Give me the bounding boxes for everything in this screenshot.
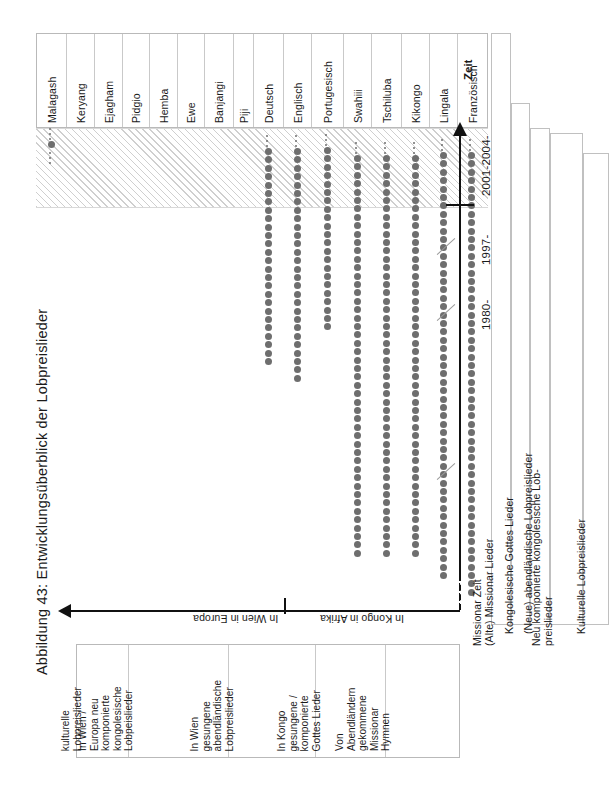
data-dot — [412, 390, 419, 397]
category-label: Pidgio — [131, 93, 142, 123]
data-dot — [383, 214, 390, 221]
data-dot — [412, 172, 419, 179]
data-dot — [383, 231, 390, 238]
data-dot — [324, 307, 331, 314]
data-dot — [354, 508, 361, 515]
description-text: Von Abendländern gekommene Missionar Hym… — [334, 688, 392, 751]
data-dot — [383, 373, 390, 380]
data-dot — [468, 463, 475, 470]
category-cell-piji: Piji — [234, 34, 254, 127]
data-dot — [383, 441, 390, 448]
data-dot — [354, 491, 361, 498]
data-dot — [294, 299, 301, 306]
data-dot — [383, 155, 390, 162]
data-dot — [294, 274, 301, 281]
data-dot — [354, 357, 361, 364]
data-dot — [265, 299, 272, 306]
data-dot — [412, 499, 419, 506]
data-dot — [412, 550, 419, 557]
data-dot — [468, 345, 475, 352]
data-dot — [440, 572, 447, 579]
data-dot — [383, 323, 390, 330]
data-dot — [265, 333, 272, 340]
data-dot — [383, 298, 390, 305]
data-dot — [412, 331, 419, 338]
data-dot — [383, 399, 390, 406]
data-dot — [440, 160, 447, 167]
data-dot — [440, 387, 447, 394]
data-dot — [383, 415, 390, 422]
data-dot — [468, 236, 475, 243]
data-dot — [383, 189, 390, 196]
data-dot — [294, 215, 301, 222]
data-dot — [354, 222, 361, 229]
data-dot — [468, 286, 475, 293]
data-dot — [383, 197, 390, 204]
category-label: Lingala — [438, 88, 449, 123]
data-dot — [412, 340, 419, 347]
data-dot — [294, 358, 301, 365]
data-dot — [324, 147, 331, 154]
category-label: Deutsch — [263, 84, 274, 123]
category-cell-portugesisch: Portugesisch — [312, 34, 344, 127]
data-dot — [440, 152, 447, 159]
data-dot — [265, 173, 272, 180]
data-dot — [294, 240, 301, 247]
category-label: Englisch — [292, 83, 303, 124]
data-dot — [383, 483, 390, 490]
region-axis-dashed-end — [459, 578, 460, 611]
data-dot — [412, 273, 419, 280]
data-dot — [440, 538, 447, 545]
time-axis-line — [459, 132, 461, 578]
data-dot — [324, 164, 331, 171]
data-dot — [412, 256, 419, 263]
category-label: Kikongo — [410, 84, 421, 123]
data-dot — [294, 341, 301, 348]
data-dot — [468, 362, 475, 369]
data-dot — [440, 463, 447, 470]
category-label: Piji — [238, 109, 249, 123]
data-dot — [354, 163, 361, 170]
data-dot — [412, 466, 419, 473]
data-dot — [468, 438, 475, 445]
data-dot — [354, 256, 361, 263]
description-text: In Wien gesungene abendländische Lobprei… — [188, 680, 234, 751]
category-cell-malagash: Malagash — [37, 34, 67, 127]
data-dot — [440, 370, 447, 377]
data-dot — [468, 379, 475, 386]
data-dot — [468, 429, 475, 436]
data-dot — [354, 407, 361, 414]
data-dot — [440, 555, 447, 562]
data-dot — [440, 429, 447, 436]
data-dot — [383, 289, 390, 296]
data-dot — [324, 273, 331, 280]
data-dot — [265, 350, 272, 357]
data-dot — [354, 441, 361, 448]
data-dot — [412, 315, 419, 322]
data-dot — [468, 270, 475, 277]
data-dot — [354, 289, 361, 296]
category-cell-banjangi: Banjangi — [205, 34, 234, 127]
data-dot — [468, 219, 475, 226]
data-dot — [265, 165, 272, 172]
data-dot — [468, 530, 475, 537]
data-dot — [354, 273, 361, 280]
category-cell-lingala: Lingala — [430, 34, 458, 127]
data-dot — [354, 281, 361, 288]
data-dot — [354, 415, 361, 422]
data-dot — [383, 273, 390, 280]
data-dot — [383, 180, 390, 187]
category-label: Malagash — [46, 77, 57, 123]
data-dot — [412, 457, 419, 464]
data-dot — [265, 308, 272, 315]
data-dot — [383, 239, 390, 246]
data-dot — [440, 345, 447, 352]
data-dot — [354, 323, 361, 330]
data-dot — [383, 382, 390, 389]
data-dot — [440, 354, 447, 361]
data-dot — [440, 228, 447, 235]
data-dot — [265, 324, 272, 331]
category-cell-französisch: Französisch — [458, 34, 487, 127]
data-dot — [412, 163, 419, 170]
description-cell-4: Von Abendländern gekommene Missionar Hym… — [386, 645, 459, 757]
